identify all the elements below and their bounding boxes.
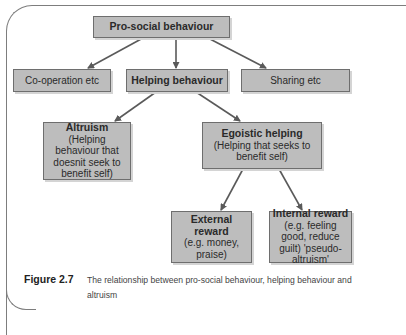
node-altruism: Altruism (Helping behaviour that doesnit… — [43, 122, 131, 180]
arrow-prosocial-to-sharing — [208, 38, 266, 68]
arrow-egoistic-to-external — [221, 169, 243, 210]
node-description: (Helping that seeks to benefit self) — [211, 140, 313, 163]
arrow-prosocial-to-cooperation — [88, 38, 143, 68]
node-sharing: Sharing etc — [241, 69, 350, 92]
figure-caption-text: The relationship between pro-social beha… — [87, 273, 357, 303]
node-title: Co-operation etc — [25, 75, 99, 87]
node-description: (e.g. feeling good, reduce guilt) 'pseud… — [272, 220, 349, 266]
arrow-helping-to-altruism — [115, 92, 156, 121]
node-title: Helping behaviour — [131, 75, 223, 87]
node-internal-reward: Internal reward (e.g. feeling good, redu… — [269, 211, 352, 263]
node-egoistic-helping: Egoistic helping (Helping that seeks to … — [202, 122, 322, 169]
node-title: Egoistic helping — [221, 128, 302, 140]
node-title: Internal reward — [273, 208, 348, 220]
node-description: (e.g. money, praise) — [178, 237, 245, 260]
arrow-egoistic-to-internal — [279, 169, 302, 210]
figure-label: Figure 2.7 — [24, 272, 74, 287]
node-title: External reward — [178, 214, 245, 237]
node-external-reward: External reward (e.g. money, praise) — [171, 211, 252, 263]
node-description: (Helping behaviour that doesnit seek to … — [48, 134, 126, 180]
node-title: Altruism — [66, 122, 109, 134]
node-cooperation: Co-operation etc — [13, 69, 111, 92]
node-title: Sharing etc — [270, 75, 321, 87]
node-helping-behaviour: Helping behaviour — [126, 69, 228, 92]
arrow-helping-to-egoistic — [196, 92, 240, 121]
node-prosocial-behaviour: Pro-social behaviour — [93, 16, 230, 38]
node-title: Pro-social behaviour — [110, 21, 214, 33]
